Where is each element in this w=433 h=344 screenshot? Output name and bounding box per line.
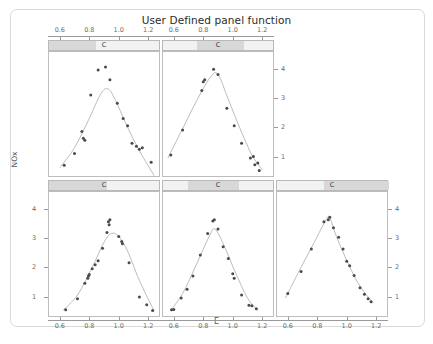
data-point <box>180 296 183 299</box>
data-point <box>227 257 230 260</box>
panel-grid: C0.60.81.01.2C0.60.81.01.21234C0.60.81.0… <box>48 40 388 318</box>
axis-ticks-right: 1234 <box>274 51 296 177</box>
data-point <box>222 245 225 248</box>
data-point <box>359 286 362 289</box>
tick-mark <box>388 209 392 210</box>
data-point <box>135 145 138 148</box>
data-point <box>63 164 66 167</box>
data-point <box>116 102 119 105</box>
tick-label: 1.0 <box>225 322 241 330</box>
data-point <box>138 148 141 151</box>
tick-label: 3 <box>32 234 36 242</box>
panel-row2-col2 <box>162 191 274 317</box>
data-point <box>240 142 243 145</box>
data-point <box>105 231 108 234</box>
data-point <box>151 309 154 312</box>
data-point <box>217 228 220 231</box>
data-point <box>138 296 141 299</box>
data-point <box>255 307 258 310</box>
tick-mark <box>388 267 392 268</box>
data-point <box>80 130 83 133</box>
tick-label: 1.0 <box>111 26 127 34</box>
y-axis-title: NOx <box>10 142 19 178</box>
data-point <box>181 129 184 132</box>
panel-strip: C <box>276 180 388 191</box>
tick-label: 1.2 <box>254 322 270 330</box>
strip-label: C <box>102 182 107 189</box>
data-point <box>240 294 243 297</box>
data-point <box>64 308 67 311</box>
data-point <box>121 242 124 245</box>
tick-label: 1.2 <box>368 322 384 330</box>
data-point <box>332 226 335 229</box>
data-point <box>199 253 202 256</box>
tick-label: 0.8 <box>309 322 325 330</box>
data-point <box>172 308 175 311</box>
data-point <box>89 93 92 96</box>
tick-label: 3 <box>395 234 399 242</box>
axis-ticks-top: 0.60.81.01.2 <box>48 26 160 40</box>
data-point <box>128 261 131 264</box>
panel-plot-area <box>162 191 274 317</box>
data-point <box>363 293 366 296</box>
data-point <box>150 161 153 164</box>
data-point <box>101 247 104 250</box>
data-point <box>126 124 129 127</box>
data-point <box>83 139 86 142</box>
data-point <box>97 69 100 72</box>
tick-label: 2 <box>395 263 399 271</box>
strip-shingle-fill <box>49 41 96 50</box>
tick-label: 1.2 <box>140 322 156 330</box>
axis-spine <box>48 36 274 37</box>
data-point <box>252 155 255 158</box>
tick-label: 1.2 <box>140 26 156 34</box>
panel-strip: C <box>48 40 160 51</box>
data-point <box>145 303 148 306</box>
axis-ticks-top: 0.60.81.01.2 <box>162 26 274 40</box>
panel-strip: C <box>48 180 160 191</box>
data-point <box>88 273 91 276</box>
strip-shingle-fill <box>188 181 240 190</box>
fitted-curve <box>286 216 374 303</box>
fitted-curve <box>168 72 262 169</box>
chart-root: User Defined panel function NOx E C0.60.… <box>0 0 433 344</box>
data-point <box>200 89 203 92</box>
data-point <box>225 107 228 110</box>
axis-ticks-right: 1234 <box>388 191 410 317</box>
panel-row2-col1 <box>48 191 160 317</box>
tick-label: 0.6 <box>280 322 296 330</box>
data-point <box>213 218 216 221</box>
data-point <box>206 232 209 235</box>
tick-label: 1.2 <box>254 26 270 34</box>
data-point <box>108 78 111 81</box>
strip-label: C <box>102 42 107 49</box>
data-point <box>342 248 345 251</box>
panel-row1-col1 <box>48 51 160 177</box>
tick-mark <box>388 297 392 298</box>
tick-label: 1.0 <box>111 322 127 330</box>
data-point <box>353 274 356 277</box>
data-point <box>300 270 303 273</box>
tick-mark <box>274 69 278 70</box>
tick-label: 0.6 <box>166 322 182 330</box>
data-point <box>73 152 76 155</box>
chart-title: User Defined panel function <box>0 14 433 26</box>
data-point <box>108 223 111 226</box>
fitted-curve <box>170 229 258 311</box>
data-point <box>76 297 79 300</box>
panel-plot-area <box>162 51 274 177</box>
panel-plot-area <box>48 51 160 177</box>
tick-label: 1.0 <box>339 322 355 330</box>
tick-label: 1.0 <box>225 26 241 34</box>
tick-mark <box>274 98 278 99</box>
strip-shingle-fill <box>49 181 107 190</box>
data-point <box>83 282 86 285</box>
data-point <box>231 272 234 275</box>
panel-plot-area <box>276 191 388 317</box>
tick-label: 0.8 <box>195 26 211 34</box>
tick-label: 2 <box>281 123 285 131</box>
data-point <box>217 73 220 76</box>
tick-label: 0.6 <box>166 26 182 34</box>
tick-label: 0.6 <box>52 322 68 330</box>
tick-label: 3 <box>281 94 285 102</box>
